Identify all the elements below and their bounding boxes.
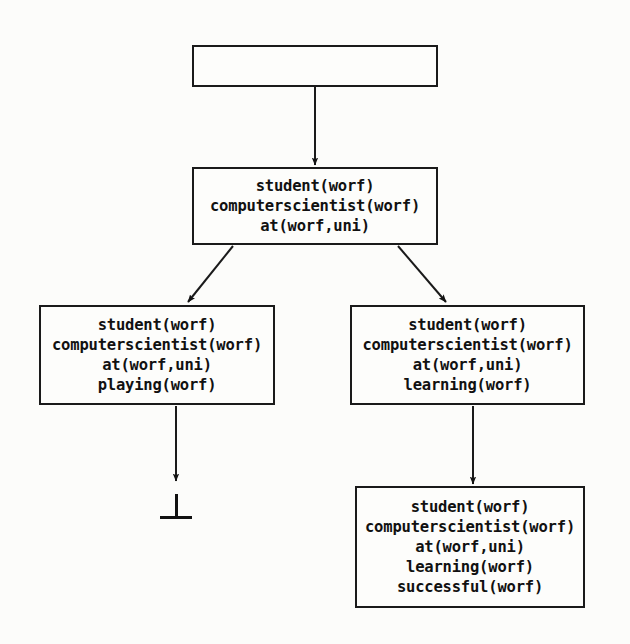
- node-learning-branch[interactable]: student(worf)computerscientist(worf)at(w…: [350, 305, 585, 405]
- falsum-bar: [160, 516, 192, 519]
- literal-text: computerscientist(worf): [362, 335, 572, 355]
- literal-text: computerscientist(worf): [365, 517, 575, 537]
- literal-text: learning(worf): [406, 557, 534, 577]
- literal-text: student(worf): [411, 497, 530, 517]
- literal-text: computerscientist(worf): [52, 335, 262, 355]
- literal-text: at(worf,uni): [102, 355, 212, 375]
- literal-text: playing(worf): [98, 375, 217, 395]
- edge-initial-to-learning: [398, 246, 446, 302]
- literal-text: at(worf,uni): [260, 216, 370, 236]
- falsum-symbol: [160, 494, 192, 520]
- literal-text: student(worf): [256, 176, 375, 196]
- literal-text: learning(worf): [404, 375, 532, 395]
- literal-text: student(worf): [408, 315, 527, 335]
- literal-text: successful(worf): [397, 577, 543, 597]
- node-successful-branch[interactable]: student(worf)computerscientist(worf)at(w…: [355, 486, 585, 608]
- node-initial-state[interactable]: student(worf)computerscientist(worf)at(w…: [192, 167, 438, 245]
- literal-text: computerscientist(worf): [210, 196, 420, 216]
- literal-text: at(worf,uni): [415, 537, 525, 557]
- falsum-stem: [175, 494, 178, 516]
- edge-initial-to-playing: [188, 246, 233, 302]
- proof-tree-diagram: student(worf)computerscientist(worf)at(w…: [0, 0, 630, 644]
- literal-text: student(worf): [98, 315, 217, 335]
- node-playing-branch[interactable]: student(worf)computerscientist(worf)at(w…: [39, 305, 275, 405]
- literal-text: at(worf,uni): [413, 355, 523, 375]
- root-node[interactable]: [192, 45, 438, 87]
